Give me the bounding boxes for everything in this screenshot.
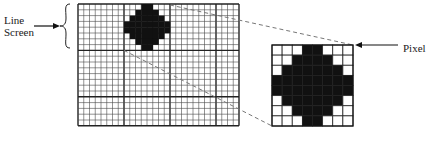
enlarged-pixel-grid [272, 45, 353, 126]
halftone-line-screen-diagram: Line Screen Pixel [0, 0, 428, 149]
line-screen-label: Line Screen [4, 14, 44, 38]
diagram-canvas [0, 0, 428, 149]
halftone-dot [124, 4, 170, 51]
line-screen-label-line2: Screen [4, 26, 44, 38]
pixel-label: Pixel [403, 42, 426, 54]
line-screen-brace-icon [60, 4, 70, 48]
pixel-arrow-icon [355, 42, 398, 48]
line-screen-label-line1: Line [4, 14, 44, 26]
